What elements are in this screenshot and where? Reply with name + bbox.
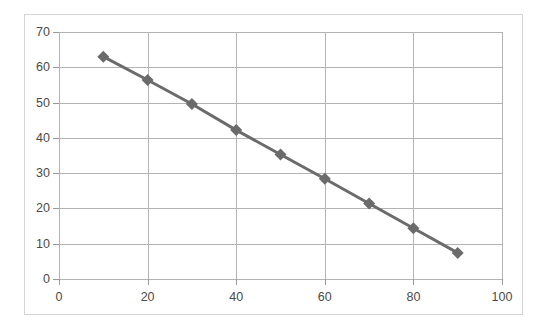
tick-x-100 [502,279,503,285]
tick-x-20 [148,279,149,285]
data-point-marker [275,148,287,160]
tick-x-60 [325,279,326,285]
y-tick-label-40: 40 [36,132,50,145]
x-tick-label-40: 40 [229,291,243,304]
x-tick-label-80: 80 [406,291,420,304]
tick-x-80 [413,279,414,285]
x-tick-label-60: 60 [318,291,332,304]
series-plot [59,32,502,279]
x-tick-label-100: 100 [492,291,513,304]
y-tick-label-30: 30 [36,167,50,180]
x-tick-label-0: 0 [56,291,63,304]
gridline-v-100 [502,32,503,279]
data-point-marker [319,173,331,185]
x-tick-label-20: 20 [141,291,155,304]
y-tick-label-70: 70 [36,26,50,39]
tick-x-0 [59,279,60,285]
data-point-marker [142,74,154,86]
y-tick-label-0: 0 [43,273,50,286]
y-tick-label-60: 60 [36,61,50,74]
plot-area: 70 60 50 40 30 20 10 0 [59,32,502,279]
data-point-marker [97,51,109,63]
gridline-h-0 [59,279,502,280]
chart-frame: 70 60 50 40 30 20 10 0 [24,14,523,315]
data-point-marker [407,222,419,234]
tick-x-40 [236,279,237,285]
y-tick-label-20: 20 [36,202,50,215]
data-point-marker [363,197,375,209]
data-point-marker [452,247,464,259]
y-tick-label-50: 50 [36,96,50,109]
y-tick-label-10: 10 [36,237,50,250]
